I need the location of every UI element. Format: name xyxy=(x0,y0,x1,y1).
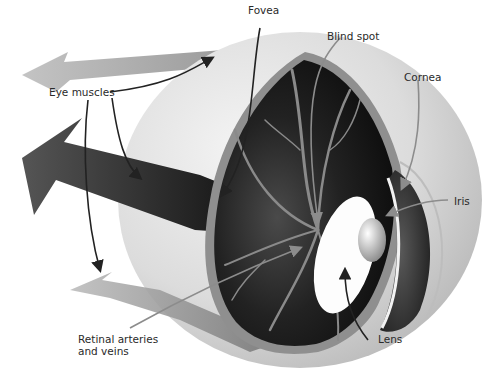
label-lens: Lens xyxy=(378,333,402,345)
label-iris: Iris xyxy=(454,195,470,207)
label-retinal-line2: and veins xyxy=(78,345,158,357)
lens xyxy=(358,218,386,262)
label-blind-spot: Blind spot xyxy=(327,30,379,42)
eye-illustration xyxy=(0,0,494,378)
label-retinal-line1: Retinal arteries xyxy=(78,333,158,345)
label-retinal-arteries: Retinal arteries and veins xyxy=(78,333,158,357)
label-cornea: Cornea xyxy=(404,71,441,83)
label-fovea: Fovea xyxy=(248,4,279,16)
label-eye-muscles: Eye muscles xyxy=(49,86,115,98)
eye-anatomy-diagram: Fovea Blind spot Eye muscles Cornea Iris… xyxy=(0,0,494,378)
